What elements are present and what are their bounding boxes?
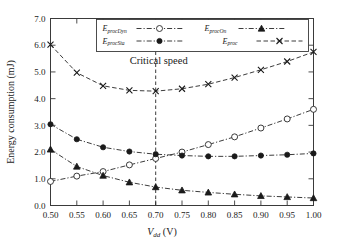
y-tick-label: 2.0 [34, 147, 46, 157]
marker-E_procDyn [74, 173, 80, 179]
legend-swatch-marker-E_procDyn [157, 26, 163, 32]
marker-E_procSta [153, 152, 158, 157]
marker-E_procDyn [205, 142, 211, 148]
marker-E_procDyn [232, 134, 238, 140]
marker-E_procSta [74, 137, 79, 142]
marker-E_procSta [285, 152, 290, 157]
marker-E_procSta [127, 149, 132, 154]
marker-E_procDyn [284, 116, 290, 122]
x-tick-label: 0.75 [174, 210, 190, 220]
x-tick-label: 0.60 [95, 210, 111, 220]
marker-E_proc [74, 70, 80, 76]
marker-E_procOn [231, 191, 238, 197]
legend-box [97, 20, 309, 52]
marker-E_procSta [206, 154, 211, 159]
chart-figure: 0.01.02.03.04.05.06.07.0 0.500.550.600.6… [0, 0, 341, 247]
x-axis-title-unit: (V) [163, 226, 177, 238]
marker-E_procSta [232, 154, 237, 159]
x-tick-label: 0.55 [69, 210, 85, 220]
marker-E_procSta [311, 151, 316, 156]
x-tick-label: 0.85 [227, 210, 243, 220]
chart-legend: EprocDynEprocStaEprocOnEproc [97, 20, 309, 52]
y-tick-label: 5.0 [34, 67, 46, 77]
marker-E_proc [100, 83, 106, 89]
x-axis-title: Vdd (V) [147, 226, 177, 239]
y-tick-label: 1.0 [34, 174, 46, 184]
y-tick-label: 7.0 [34, 14, 46, 24]
marker-E_procSta [258, 153, 263, 158]
x-tick-label: 0.80 [200, 210, 216, 220]
x-tick-label: 0.90 [253, 210, 269, 220]
marker-E_proc [232, 75, 238, 81]
marker-E_procOn [47, 146, 54, 152]
x-tick-label: 0.70 [148, 210, 164, 220]
marker-E_procOn [152, 184, 159, 190]
marker-E_procDyn [258, 125, 264, 131]
x-tick-label: 0.65 [122, 210, 138, 220]
series-E_procSta [48, 122, 316, 159]
marker-E_procDyn [48, 178, 54, 184]
critical-speed-label: Critical speed [130, 55, 189, 66]
marker-E_procSta [179, 153, 184, 158]
x-tick-label: 0.95 [279, 210, 295, 220]
series-E_procDyn [48, 106, 317, 184]
y-tick-label: 3.0 [34, 121, 46, 131]
x-tick-label: 1.00 [306, 210, 322, 220]
y-tick-label: 6.0 [34, 40, 46, 50]
x-tick-label: 0.50 [43, 210, 59, 220]
marker-E_proc [284, 59, 290, 65]
marker-E_procSta [48, 122, 53, 127]
marker-E_procDyn [311, 106, 317, 112]
y-axis-title: Energy consumption (mJ) [5, 60, 17, 164]
y-tick-label: 4.0 [34, 94, 46, 104]
marker-E_procDyn [126, 162, 132, 168]
legend-swatch-marker-E_procSta [157, 38, 162, 43]
svg-text:Vdd (V): Vdd (V) [147, 226, 177, 239]
energy-consumption-line-chart: 0.01.02.03.04.05.06.07.0 0.500.550.600.6… [0, 0, 341, 247]
marker-E_procSta [101, 145, 106, 150]
marker-E_procOn [74, 163, 81, 169]
marker-E_proc [258, 67, 264, 73]
